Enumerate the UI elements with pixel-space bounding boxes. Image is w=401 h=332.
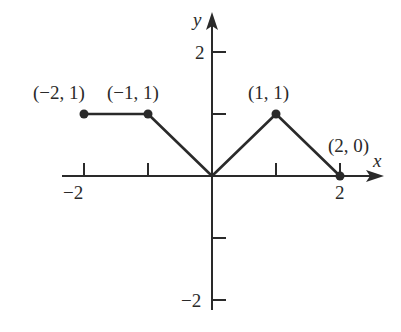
x-axis-label: x (372, 150, 382, 171)
annotation-neg2-1: (−2, 1) (33, 82, 85, 104)
y-axis-label: y (191, 9, 202, 30)
axes (62, 22, 372, 310)
point-1-1 (272, 110, 281, 119)
y-tick-label-neg2: −2 (181, 290, 201, 311)
point-neg2-1 (80, 110, 89, 119)
annotation-2-0: (2, 0) (328, 135, 369, 157)
y-tick-label-2: 2 (195, 42, 205, 63)
graph-figure: x y −2 2 2 −2 (−2, 1) (−1, 1) (1, 1) (2,… (0, 0, 401, 332)
annotation-1-1: (1, 1) (248, 82, 289, 104)
x-tick-label-2: 2 (335, 182, 345, 203)
point-2-0 (336, 172, 345, 181)
annotation-neg1-1: (−1, 1) (107, 82, 159, 104)
x-tick-label-neg2: −2 (63, 182, 83, 203)
point-neg1-1 (144, 110, 153, 119)
